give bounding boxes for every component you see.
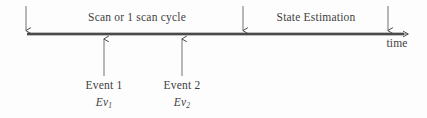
event-1-symbol: Ev1: [96, 97, 112, 109]
event-1-symbol-subscript: 1: [108, 101, 112, 110]
event-1-name: Event 1: [86, 80, 123, 92]
time-axis: [27, 33, 408, 36]
axis-label-time: time: [386, 38, 407, 50]
timeline-diagram: Scan or 1 scan cycle State Estimation ti…: [0, 0, 427, 118]
event-2-symbol: Ev2: [174, 97, 190, 109]
event-2-name: Event 2: [164, 80, 201, 92]
event-2-symbol-subscript: 2: [186, 101, 190, 110]
phase-label-scan: Scan or 1 scan cycle: [88, 12, 186, 24]
diagram-canvas: [0, 0, 427, 118]
phase-label-state-estimation: State Estimation: [277, 12, 356, 24]
event-1-symbol-base: Ev: [96, 96, 109, 108]
event-2-symbol-base: Ev: [174, 96, 187, 108]
